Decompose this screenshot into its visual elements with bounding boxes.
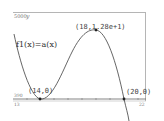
y-axis-label: y — [26, 12, 29, 19]
left-small-label: 390 — [14, 93, 23, 98]
max-point-label: (18,1.28e+1) — [75, 23, 126, 31]
zero-point-marker[interactable] — [123, 98, 126, 101]
y-max-label: 5000 — [14, 13, 27, 19]
x-max-label: 22 — [139, 102, 145, 107]
function-label: f1(x)=a(x) — [16, 40, 57, 49]
min-point-marker[interactable] — [39, 98, 42, 101]
zero-point-label: (20,0) — [126, 88, 151, 96]
min-point-label: (14,0) — [28, 87, 53, 95]
x-min-label: 13 — [14, 102, 20, 107]
